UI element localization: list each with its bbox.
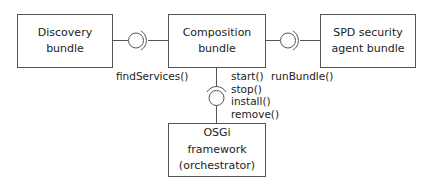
discovery-bundle-component: Discovery bundle (17, 14, 113, 68)
osgi-line-2: framework (187, 142, 246, 159)
provided-interface-lifecycle-icon (209, 91, 224, 106)
composition-line-1: Composition (183, 25, 252, 41)
runbundle-label: runBundle() (271, 70, 333, 83)
spd-line-2: agent bundle (331, 41, 404, 57)
composition-bundle-component: Composition bundle (168, 14, 266, 68)
osgi-line-1: OSGi (203, 125, 230, 142)
osgi-framework-component: OSGi framework (orchestrator) (168, 123, 266, 177)
operation-stop: stop() (231, 83, 279, 96)
operation-remove: remove() (231, 108, 279, 121)
operation-install: install() (231, 95, 279, 108)
findservices-label: findServices() (116, 70, 188, 83)
composition-line-2: bundle (198, 41, 236, 57)
discovery-line-2: bundle (46, 41, 84, 57)
spd-line-1: SPD security (333, 25, 403, 41)
required-interface-lifecycle-icon (207, 87, 226, 92)
lifecycle-operations-list: start() stop() install() remove() (231, 70, 279, 120)
provided-interface-findservices-icon (129, 33, 144, 48)
spd-security-agent-bundle-component: SPD security agent bundle (320, 14, 416, 68)
operation-start: start() (231, 70, 279, 83)
provided-interface-runbundle-icon (281, 33, 296, 48)
discovery-line-1: Discovery (38, 25, 92, 41)
osgi-line-3: (orchestrator) (179, 158, 255, 175)
